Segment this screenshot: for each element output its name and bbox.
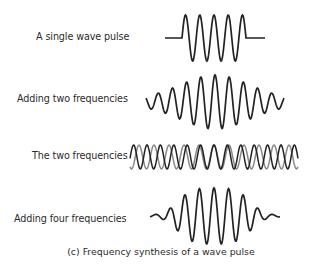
waveforms: [0, 0, 322, 264]
wave-two-frequency-sum: [146, 75, 284, 128]
wave-four-frequency-sum: [150, 188, 280, 244]
wave-single-pulse: [165, 15, 265, 61]
figure-caption: (c) Frequency synthesis of a wave pulse: [0, 246, 322, 257]
